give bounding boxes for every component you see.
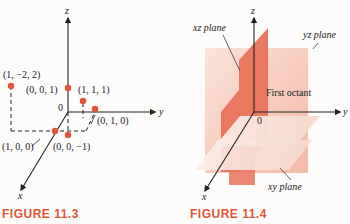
- point-0-0-neg1: [65, 132, 71, 138]
- xy-plane-label: xy plane: [267, 181, 302, 192]
- y-axis-label: y: [158, 106, 164, 117]
- xz-plane-label: xz plane: [192, 22, 227, 33]
- point-label: (0, 0, 1): [26, 84, 58, 96]
- figure-11-4: z y x 0 xz plane yz plane First octant x…: [190, 5, 348, 221]
- figure-caption: FIGURE 11.4: [190, 207, 267, 221]
- z-axis-label: z: [64, 5, 69, 16]
- x-axis-label: x: [201, 191, 207, 202]
- origin-label: 0: [257, 115, 262, 126]
- figures-canvas: z y x 0 (1, −2, 2) (0, 0, 1) (1, 1, 1) (…: [0, 0, 350, 224]
- point-label: (0, 1, 0): [97, 115, 129, 127]
- y-axis-label: y: [342, 106, 348, 117]
- figure-caption: FIGURE 11.3: [2, 207, 79, 221]
- point-label: (1, −2, 2): [3, 69, 40, 81]
- point-label: (1, 0, 0): [2, 141, 34, 153]
- first-octant-label: First octant: [266, 87, 311, 98]
- point-label: (1, 1, 1): [78, 84, 110, 96]
- figure-11-3: z y x 0 (1, −2, 2) (0, 0, 1) (1, 1, 1) (…: [2, 5, 164, 221]
- point-1-neg2-2: [8, 83, 14, 89]
- origin-label: 0: [58, 102, 63, 113]
- x-axis-label: x: [17, 190, 23, 201]
- point-1-1-1: [80, 98, 86, 104]
- point-label: (0, 0, −1): [53, 141, 90, 153]
- point-1-0-0: [52, 128, 58, 134]
- point-0-1-0: [92, 106, 98, 112]
- yz-plane-label: yz plane: [302, 29, 337, 40]
- z-axis-label: z: [250, 5, 255, 16]
- point-0-0-1: [65, 85, 71, 91]
- leader-line: [313, 43, 318, 49]
